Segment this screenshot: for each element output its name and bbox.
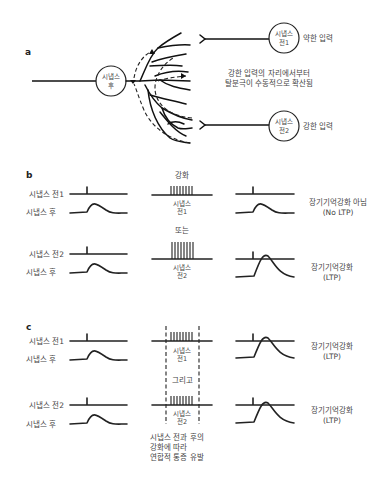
panel-c: c 시냅스 전1 시냅스 후 시냅스 전2 시냅스 후 시냅스 전1 그리고 시…: [26, 322, 353, 462]
c-result2-line1: 장기기억강화: [311, 405, 353, 415]
b-label-post-b: 시냅스 후: [26, 268, 56, 277]
post-neuron-label-1: 시냅스: [102, 72, 120, 81]
pre1-neuron-label-2: 전1: [279, 38, 289, 47]
b-trace-pre1-after: [236, 187, 294, 194]
c-stim1-label-1: 시냅스: [173, 346, 191, 355]
b-result2-line2: (LTP): [323, 273, 341, 282]
c-trace-pre2-after: [236, 398, 294, 405]
b-trace-pre1-before: [70, 187, 127, 194]
c-trace-post-b-before: [70, 415, 127, 424]
post-neuron-label-2: 후: [108, 82, 114, 90]
c-label-post-a: 시냅스 후: [26, 355, 56, 364]
b-tetanus-pre2-strong: [152, 242, 212, 259]
synapse-2-terminal: [200, 121, 205, 129]
c-result2-line2: (LTP): [323, 416, 341, 425]
b-label-pre1: 시냅스 전1: [29, 189, 64, 199]
b-label-post-a: 시냅스 후: [26, 208, 56, 217]
b-trace-pre2-before: [70, 247, 127, 254]
panel-a-label: a: [25, 47, 31, 57]
synapse-1-terminal: [200, 35, 205, 43]
c-label-post-b: 시냅스 후: [26, 420, 56, 429]
c-trace-post-a-before: [70, 351, 127, 360]
c-stim2-label-1: 시냅스: [173, 409, 191, 418]
ltp-associativity-diagram: a 시냅스 후: [0, 0, 386, 488]
strong-input-label: 강한 입력: [303, 121, 333, 131]
c-trace-pre1-before: [70, 334, 127, 341]
weak-input-label: 약한 입력: [303, 33, 333, 43]
b-result2-line1: 장기기억강화: [311, 262, 353, 272]
c-trace-pre2-before: [70, 398, 127, 405]
spread-text-1: 강한 입력의 자리에서부터: [228, 68, 310, 78]
pre1-neuron-label-1: 시냅스: [275, 29, 293, 38]
c-tetanus-pre1: [152, 332, 212, 341]
spread-text-2: 탈분극이 수동적으로 확산됨: [225, 78, 314, 88]
tetanus-title: 강화: [175, 170, 189, 180]
b-stim2-label-2: 전2: [177, 271, 187, 280]
c-result1-line1: 장기기억강화: [311, 341, 353, 351]
c-caption-line3: 연합적 통증 유발: [150, 452, 204, 462]
c-label-pre1: 시냅스 전1: [29, 336, 64, 346]
dendritic-tree: [126, 33, 192, 143]
c-tetanus-pre2: [152, 396, 212, 405]
and-text: 그리고: [172, 376, 193, 385]
b-stim1-label-2: 전1: [177, 207, 187, 216]
panel-c-label: c: [26, 322, 31, 332]
b-trace-post-b-before: [70, 264, 127, 273]
c-stim2-label-2: 전2: [177, 417, 187, 426]
b-stim2-label-1: 시냅스: [173, 263, 191, 272]
c-caption-line1: 시냅스 전과 후의: [150, 432, 204, 442]
pre2-neuron-label-2: 전2: [279, 126, 289, 135]
or-text: 또는: [175, 226, 189, 235]
presynaptic-neuron-2: [269, 111, 299, 141]
b-result1-line1: 장기기억강화 아님: [309, 197, 367, 207]
b-stim1-label-1: 시냅스: [173, 199, 191, 208]
b-tetanus-pre1-weak: [152, 186, 212, 195]
c-label-pre2: 시냅스 전2: [29, 400, 64, 410]
c-caption-line2: 강화에 따라: [150, 442, 187, 452]
panel-a: a 시냅스 후: [25, 23, 333, 143]
b-trace-post-a-before: [70, 204, 127, 213]
presynaptic-neuron-1: [269, 23, 299, 53]
b-result1-line2: (No LTP): [323, 208, 354, 217]
b-trace-post-a-after: [236, 204, 294, 213]
b-label-pre2: 시냅스 전2: [29, 249, 64, 259]
pre2-neuron-label-1: 시냅스: [275, 117, 293, 126]
panel-b-label: b: [26, 170, 33, 180]
panel-b: b 시냅스 전1 시냅스 후 시냅스 전2 시냅스 후 강화 시냅스 전1 또는…: [26, 170, 368, 282]
c-stim1-label-2: 전1: [177, 354, 187, 363]
postsynaptic-neuron: [96, 66, 126, 96]
c-result1-line2: (LTP): [323, 352, 341, 361]
